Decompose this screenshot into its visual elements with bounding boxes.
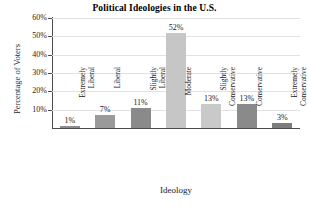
bar — [60, 126, 80, 128]
bar-chart: Political Ideologies in the U.S. Percent… — [0, 0, 309, 211]
bar — [131, 108, 151, 128]
category-label-line: Conservative — [300, 67, 309, 131]
bar — [272, 123, 292, 129]
category-label-line: Liberal — [114, 67, 123, 131]
y-axis-tick-label: 20% — [32, 86, 47, 95]
bar — [237, 104, 257, 128]
y-axis-tick — [48, 91, 52, 92]
chart-title: Political Ideologies in the U.S. — [0, 3, 309, 13]
y-axis-tick-label: 60% — [32, 13, 47, 22]
x-axis-category-label: SlightlyConservative — [220, 67, 237, 131]
bar — [201, 104, 221, 128]
category-label-line: Conservative — [229, 67, 238, 131]
y-axis-tick — [48, 73, 52, 74]
category-label-line: Conservative — [256, 67, 265, 131]
x-axis-category-label: Liberal — [114, 67, 123, 131]
gridline — [52, 18, 300, 19]
x-axis-category-label: Moderate — [185, 67, 194, 131]
y-axis-tick-label: 10% — [32, 105, 47, 114]
y-axis-tick — [48, 36, 52, 37]
x-axis-category-label: Conservative — [256, 67, 265, 131]
y-axis-tick-label: 30% — [32, 68, 47, 77]
bar — [166, 33, 186, 128]
y-axis-title: Percentage of Voters — [12, 19, 22, 139]
category-label-line: Slightly — [150, 67, 159, 131]
y-axis-tick — [48, 55, 52, 56]
x-axis-category-label: SlightlyLiberal — [150, 67, 167, 131]
category-label-line: Extremely — [79, 67, 88, 131]
x-axis-category-label: ExtremelyLiberal — [79, 67, 96, 131]
y-axis-tick — [48, 18, 52, 19]
category-label-line: Moderate — [185, 67, 194, 131]
bar — [95, 115, 115, 128]
category-label-line: Liberal — [158, 67, 167, 131]
y-axis-tick-label: 50% — [32, 31, 47, 40]
y-axis-tick — [48, 110, 52, 111]
y-axis-tick-label: 40% — [32, 50, 47, 59]
category-label-line: Liberal — [87, 67, 96, 131]
bar-value-label: 52% — [158, 23, 194, 32]
x-axis-category-label: ExtremelyConservative — [291, 67, 308, 131]
x-axis-title: Ideology — [52, 185, 300, 195]
